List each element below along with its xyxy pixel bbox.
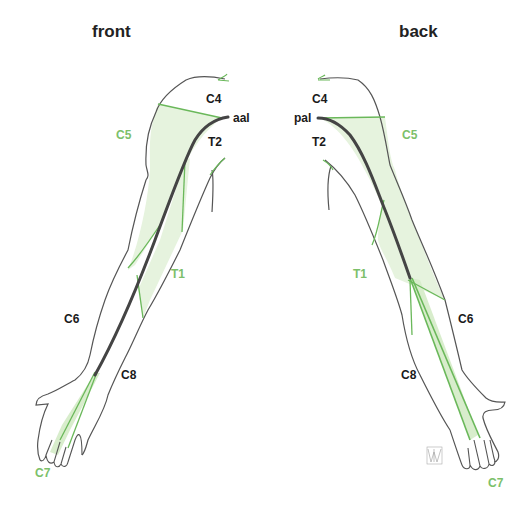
back-c7-boundary-1 <box>410 278 470 440</box>
artist-signature-icon <box>427 447 442 464</box>
front-label-t1: T1 <box>171 268 185 280</box>
back-c7-region <box>410 278 478 440</box>
front-label-t2: T2 <box>208 136 222 148</box>
front-label-c4: C4 <box>206 93 221 105</box>
front-label-aal: aal <box>233 112 250 124</box>
back-label-pal: pal <box>294 112 311 124</box>
back-label-c7: C7 <box>488 477 503 489</box>
front-arm <box>36 74 229 467</box>
front-label-c6: C6 <box>64 313 79 325</box>
front-label-c8: C8 <box>121 369 136 381</box>
back-label-c6: C6 <box>458 313 473 325</box>
back-axilla-fold <box>328 166 331 210</box>
front-label-c7: C7 <box>35 467 50 479</box>
front-c7-boundary-1 <box>60 372 95 440</box>
back-label-t2: T2 <box>312 136 326 148</box>
front-title: front <box>92 22 131 42</box>
back-title: back <box>399 22 438 42</box>
back-shoulder-tip <box>318 75 330 80</box>
back-label-t1: T1 <box>353 268 367 280</box>
dermatome-diagram <box>0 0 531 522</box>
front-axilla-fold <box>212 170 213 212</box>
back-t1-boundary-3 <box>410 280 412 335</box>
back-label-c5: C5 <box>402 129 417 141</box>
back-label-c4: C4 <box>312 93 327 105</box>
front-label-c5: C5 <box>116 129 131 141</box>
back-label-c8: C8 <box>401 369 416 381</box>
